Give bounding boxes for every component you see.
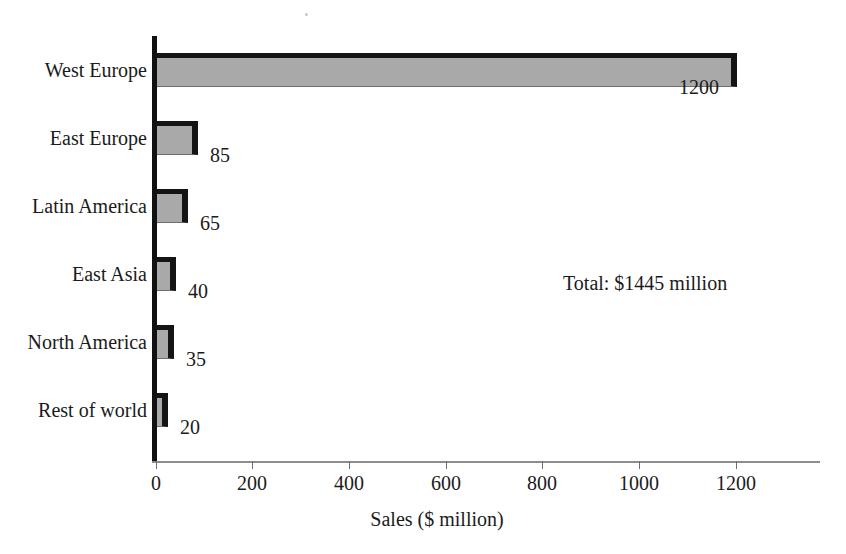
x-tick	[736, 461, 737, 469]
bar-value-label: 85	[210, 138, 230, 172]
x-tick-label: 1000	[619, 472, 659, 495]
bar-value-label: 20	[180, 410, 200, 444]
bar-row: Latin America 65	[157, 172, 820, 240]
category-label: Rest of world	[38, 376, 147, 444]
x-axis-title: Sales ($ million)	[0, 508, 846, 531]
bar	[157, 325, 174, 359]
bar-value-label: 40	[188, 274, 208, 308]
x-tick	[639, 461, 640, 469]
bar-container: 35	[157, 325, 174, 359]
bar-row: North America 35	[157, 308, 820, 376]
category-label: North America	[28, 308, 147, 376]
bar-row: East Europe 85	[157, 104, 820, 172]
bar	[157, 53, 737, 87]
bar	[157, 393, 168, 427]
bar-value-label: 1200	[679, 70, 719, 104]
x-tick-label: 400	[334, 472, 364, 495]
bar-value-label: 35	[186, 342, 206, 376]
category-label: East Asia	[72, 240, 147, 308]
x-tick-label: 1200	[716, 472, 756, 495]
category-label: Latin America	[32, 172, 147, 240]
x-tick-label: 200	[237, 472, 267, 495]
bar-container: 85	[157, 121, 198, 155]
category-label: West Europe	[45, 36, 147, 104]
x-tick-label: 600	[431, 472, 461, 495]
plot-area: West Europe 1200 East Europe 85 Latin Am…	[157, 36, 820, 461]
bar-container: 20	[157, 393, 168, 427]
scan-artifact-speck	[305, 13, 308, 16]
x-tick-label: 800	[527, 472, 557, 495]
bar-row: Rest of world 20	[157, 376, 820, 444]
bar	[157, 121, 198, 155]
bar	[157, 189, 188, 223]
x-tick	[542, 461, 543, 469]
total-annotation: Total: $1445 million	[563, 272, 727, 295]
bar	[157, 257, 176, 291]
bar-container: 65	[157, 189, 188, 223]
x-tick-label: 0	[151, 472, 161, 495]
x-axis-title-text: Sales ($ million)	[370, 508, 503, 530]
bar-row: West Europe 1200	[157, 36, 820, 104]
bar-container: 1200	[157, 53, 737, 87]
x-tick	[252, 461, 253, 469]
bar-container: 40	[157, 257, 176, 291]
category-label: East Europe	[50, 104, 147, 172]
bar-chart: West Europe 1200 East Europe 85 Latin Am…	[0, 0, 846, 554]
x-tick	[349, 461, 350, 469]
x-tick	[156, 461, 157, 469]
bar-value-label: 65	[200, 206, 220, 240]
x-tick	[446, 461, 447, 469]
